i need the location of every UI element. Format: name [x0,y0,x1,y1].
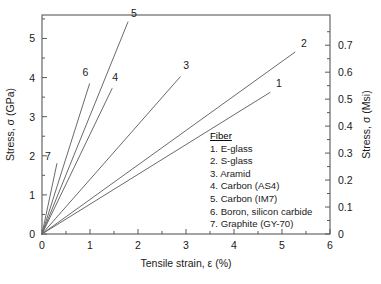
y-right-tick-label: 0 [338,228,344,240]
x-tick-label: 5 [279,239,285,251]
curve-label-6: 6 [83,66,89,78]
legend-entry-1: 1. E-glass [210,143,253,154]
y-right-axis-title: Stress, σ (Msi) [360,90,372,158]
y-left-tick-label: 0 [29,228,35,240]
plot-frame [42,15,330,234]
y-left-tick-label: 1 [29,189,35,201]
y-right-tick-label: 0.2 [338,174,353,186]
x-tick-label: 1 [87,239,93,251]
x-tick-label: 4 [231,239,237,251]
curve-7 [42,164,57,234]
y-right-tick-label: 0.1 [338,201,353,213]
curve-3 [42,77,180,234]
y-left-axis-title: Stress, σ (GPa) [4,88,16,161]
legend-entry-3: 3. Aramid [210,168,251,179]
curve-label-2: 2 [301,37,307,49]
legend-entry-7: 7. Graphite (GY-70) [210,218,293,229]
curve-5 [42,22,128,234]
y-right-tick-label: 0.7 [338,39,353,51]
curve-label-5: 5 [131,7,137,19]
legend-entry-2: 2. S-glass [210,155,253,166]
legend-entry-4: 4. Carbon (AS4) [210,180,279,191]
y-right-tick-label: 0.5 [338,93,353,105]
legend-entry-5: 5. Carbon (IM7) [210,193,277,204]
curve-label-4: 4 [112,71,118,83]
y-right-tick-label: 0.4 [338,120,353,132]
curve-label-3: 3 [183,59,189,71]
x-axis-title: Tensile strain, ε (%) [140,257,231,269]
x-tick-label: 2 [135,239,141,251]
y-right-tick-label: 0.6 [338,66,353,78]
y-left-tick-label: 3 [29,111,35,123]
stress-strain-plot: 012345601234500.10.20.30.40.50.60.712345… [0,0,381,284]
legend-entry-6: 6. Boron, silicon carbide [210,206,312,217]
x-tick-label: 0 [39,239,45,251]
curve-label-1: 1 [276,77,282,89]
y-left-tick-label: 5 [29,32,35,44]
y-left-tick-label: 2 [29,150,35,162]
curve-label-7: 7 [45,150,51,162]
y-right-tick-label: 0.3 [338,147,353,159]
x-tick-label: 3 [183,239,189,251]
legend-title: Fiber [210,130,233,141]
stress-strain-chart-figure: 012345601234500.10.20.30.40.50.60.712345… [0,0,381,284]
y-left-tick-label: 4 [29,72,35,84]
x-tick-label: 6 [327,239,333,251]
